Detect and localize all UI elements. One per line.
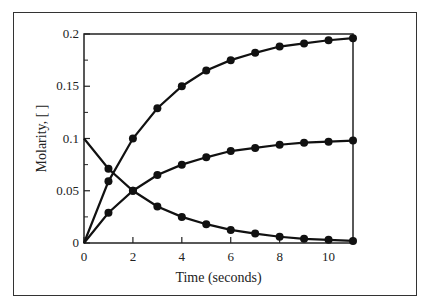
y-tick-label: 0 (73, 235, 80, 250)
data-point (153, 171, 161, 179)
data-point (349, 137, 357, 145)
data-point (325, 36, 333, 44)
data-point (104, 209, 112, 217)
data-point (129, 187, 137, 195)
data-point (153, 202, 161, 210)
y-axis-title-text: Molarity, [ ] (34, 105, 49, 173)
x-tick-label: 4 (179, 249, 186, 264)
data-point (325, 138, 333, 146)
data-point (227, 56, 235, 64)
data-point (202, 153, 210, 161)
data-point (178, 213, 186, 221)
y-tick-label: 0.1 (63, 131, 79, 146)
data-point (104, 177, 112, 185)
series-line-0 (84, 38, 353, 243)
data-point (227, 147, 235, 155)
data-point (300, 235, 308, 243)
x-tick-label: 10 (322, 249, 335, 264)
data-point (129, 135, 137, 143)
x-tick-label: 8 (276, 249, 283, 264)
y-tick-label: 0.15 (56, 78, 79, 93)
data-point (251, 49, 259, 57)
data-point (276, 43, 284, 51)
data-point (251, 230, 259, 238)
data-point (178, 82, 186, 90)
data-point (153, 104, 161, 112)
data-point (202, 220, 210, 228)
x-tick-label: 6 (227, 249, 234, 264)
line-chart: 00.050.10.150.20246810Time (seconds)Mola… (0, 0, 428, 308)
data-point (349, 34, 357, 42)
x-tick-label: 0 (81, 249, 88, 264)
data-point (349, 237, 357, 245)
data-point (300, 139, 308, 147)
data-point (325, 236, 333, 244)
x-axis-title-text: Time (seconds) (175, 270, 262, 286)
data-point (202, 67, 210, 75)
x-tick-label: 2 (130, 249, 137, 264)
data-point (178, 161, 186, 169)
data-point (276, 233, 284, 241)
data-point (251, 144, 259, 152)
data-point (276, 141, 284, 149)
y-tick-label: 0.2 (63, 26, 79, 41)
data-point (104, 165, 112, 173)
data-point (227, 226, 235, 234)
data-point (300, 39, 308, 47)
y-tick-label: 0.05 (56, 183, 79, 198)
